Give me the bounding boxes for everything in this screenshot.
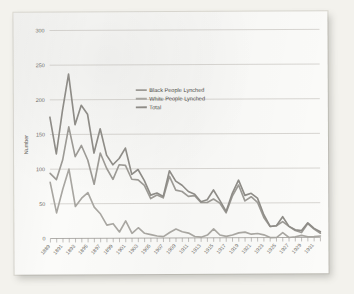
y-axis-title: Number xyxy=(23,135,29,154)
y-tick-label-0: 0 xyxy=(42,236,45,242)
x-tick-label-1905: 1905 xyxy=(140,243,152,256)
x-tick-label-1903: 1903 xyxy=(127,243,139,256)
legend-label-total: Total xyxy=(149,104,161,110)
chart-legend: Black People LynchedWhite People Lynched… xyxy=(136,87,205,111)
x-tick-label-1919: 1919 xyxy=(228,242,240,255)
x-tick-label-1917: 1917 xyxy=(215,242,227,255)
x-tick-label-1925: 1925 xyxy=(265,242,277,255)
x-tick-label-1897: 1897 xyxy=(89,243,101,256)
x-axis-tick-labels: 1889189118931895189718991901190319051907… xyxy=(39,242,315,256)
x-axis-line xyxy=(50,237,320,238)
x-tick-label-1927: 1927 xyxy=(278,242,290,255)
x-tick-label-1909: 1909 xyxy=(165,243,177,256)
x-tick-label-1923: 1923 xyxy=(253,242,265,255)
x-tick-label-1901: 1901 xyxy=(115,243,127,256)
y-axis-tick-labels: 050100150200250300 xyxy=(35,28,45,242)
y-tick-label-200: 200 xyxy=(36,97,45,103)
gridlines xyxy=(50,29,321,204)
series-line-black-people-lynched xyxy=(50,126,320,235)
legend-label-black-people-lynched: Black People Lynched xyxy=(149,87,204,93)
x-tick-label-1893: 1893 xyxy=(64,243,76,256)
x-tick-label-1895: 1895 xyxy=(77,243,89,256)
x-axis xyxy=(50,237,320,238)
line-chart: 050100150200250300 188918911893189518971… xyxy=(13,11,328,274)
y-tick-label-250: 250 xyxy=(36,62,45,68)
y-tick-label-150: 150 xyxy=(36,132,45,138)
legend-label-white-people-lynched: White People Lynched xyxy=(149,95,205,101)
x-tick-label-1891: 1891 xyxy=(52,243,64,256)
x-tick-label-1913: 1913 xyxy=(190,242,202,255)
y-tick-label-50: 50 xyxy=(39,201,45,207)
x-tick-label-1911: 1911 xyxy=(178,242,190,254)
x-tick-label-1929: 1929 xyxy=(290,242,302,255)
gridline-50 xyxy=(50,203,320,204)
chart-page: 050100150200250300 188918911893189518971… xyxy=(0,0,354,294)
x-tick-label-1889: 1889 xyxy=(39,243,51,256)
x-tick-label-1921: 1921 xyxy=(240,242,252,255)
x-tick-label-1907: 1907 xyxy=(152,243,164,256)
gridline-300 xyxy=(50,29,320,30)
x-tick-label-1899: 1899 xyxy=(102,243,114,256)
gridline-250 xyxy=(50,64,320,65)
y-tick-label-300: 300 xyxy=(35,28,44,34)
x-tick-label-1915: 1915 xyxy=(202,242,214,255)
x-tick-label-1931: 1931 xyxy=(303,242,315,255)
y-tick-label-100: 100 xyxy=(36,166,45,172)
chart-svg: 050100150200250300 188918911893189518971… xyxy=(13,11,328,274)
